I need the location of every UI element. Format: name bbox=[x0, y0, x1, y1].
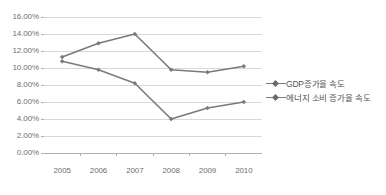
series-line-gdp bbox=[62, 34, 244, 72]
x-axis-tick-label: 2006 bbox=[90, 166, 107, 175]
data-point-marker bbox=[205, 70, 210, 75]
x-axis-tick-label: 2005 bbox=[53, 166, 70, 175]
series-line-energy bbox=[62, 61, 244, 119]
series-paths bbox=[62, 34, 244, 119]
data-point-marker bbox=[242, 100, 247, 105]
data-point-marker bbox=[60, 59, 65, 64]
x-axis-tick-label: 2009 bbox=[199, 166, 216, 175]
legend-line-marker-icon bbox=[266, 93, 286, 102]
x-axis-tick-label: 2008 bbox=[162, 166, 179, 175]
chart-legend: GDP증가율 속도 에너지 소비 증가율 속도 bbox=[266, 77, 386, 105]
legend-item-energy[interactable]: 에너지 소비 증가율 속도 bbox=[266, 91, 386, 104]
x-axis-tick-label: 2010 bbox=[235, 166, 252, 175]
data-point-marker bbox=[96, 41, 101, 46]
x-axis-tick-labels: 200520062007200820092010 bbox=[0, 158, 386, 174]
legend-line-marker-icon bbox=[266, 79, 286, 88]
line-chart: 16.00%14.00%12.00%10.00%8.00%6.00%4.00%2… bbox=[0, 0, 386, 195]
data-point-marker bbox=[60, 55, 65, 60]
axis-lines bbox=[41, 17, 262, 156]
x-axis-tick-label: 2007 bbox=[126, 166, 143, 175]
legend-label-energy: 에너지 소비 증가율 속도 bbox=[286, 93, 371, 103]
legend-item-gdp[interactable]: GDP증가율 속도 bbox=[266, 77, 386, 90]
data-point-marker bbox=[205, 106, 210, 111]
legend-label-gdp: GDP증가율 속도 bbox=[286, 79, 345, 89]
gridlines bbox=[44, 17, 262, 153]
series-markers bbox=[60, 32, 246, 122]
